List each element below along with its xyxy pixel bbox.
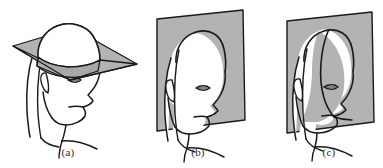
chest-line	[184, 148, 187, 162]
shoulder-line	[187, 148, 224, 157]
hair-inner-line	[38, 60, 41, 138]
mouth-line	[322, 115, 335, 116]
hair-strand-outline	[27, 54, 33, 137]
mouth-line	[69, 106, 83, 107]
chest-line	[59, 141, 62, 158]
figure-illustration	[0, 0, 383, 168]
skull-above-plane	[38, 24, 100, 67]
shoulder-line	[315, 147, 352, 156]
back-shoulder-line	[41, 138, 59, 147]
ear-icon	[41, 73, 49, 93]
neck-front-line	[62, 125, 66, 141]
neck-front-line	[187, 134, 189, 148]
neck-front-line	[315, 133, 317, 147]
anatomical-planes-figure: (a) (b) (c)	[0, 0, 383, 168]
panel-a-group	[13, 24, 137, 158]
chest-line	[312, 147, 315, 161]
mouth-line	[194, 116, 207, 117]
panel-c-group	[287, 12, 374, 161]
panel-b-group	[157, 10, 245, 162]
shoulder-line	[62, 141, 97, 149]
jaw-line	[43, 92, 52, 118]
